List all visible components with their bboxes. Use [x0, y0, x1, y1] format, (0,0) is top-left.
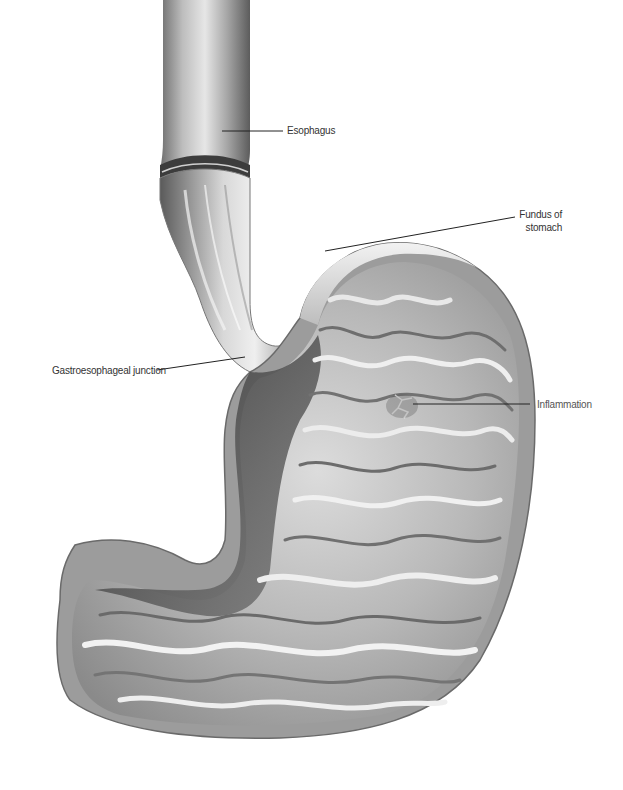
- fundus-label: Fundus of stomach: [490, 208, 562, 234]
- ge-junction-leader-line: [157, 357, 245, 370]
- inflammation-label: Inflammation: [537, 398, 592, 411]
- stomach-illustration: [0, 0, 623, 790]
- esophagus: [160, 0, 318, 375]
- stomach-wall: [57, 243, 535, 738]
- fundus-label-line2: stomach: [490, 221, 562, 234]
- fundus-label-line1: Fundus of: [490, 208, 562, 221]
- esophagus-label: Esophagus: [287, 124, 335, 137]
- gastroesophageal-junction-label: Gastroesophageal junction: [52, 364, 166, 377]
- inflammation-area: [386, 394, 418, 418]
